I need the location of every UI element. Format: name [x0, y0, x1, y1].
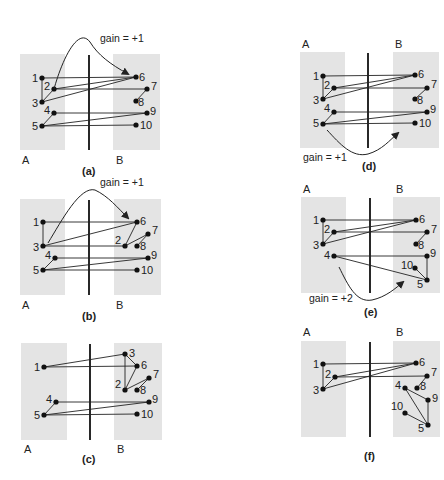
vertex-label: 9: [430, 247, 436, 259]
vertex-label: 1: [313, 214, 319, 226]
vertex-2: [331, 229, 336, 234]
vertex-label: 1: [313, 70, 319, 82]
vertex-label: 2: [325, 368, 331, 380]
vertex-5: [320, 121, 325, 126]
vertex-8: [134, 387, 139, 392]
vertex-label: 10: [419, 117, 431, 129]
vertex-9: [424, 109, 429, 114]
panel-b: 12345678910AB(b)gain = +1: [20, 176, 161, 322]
vertex-1: [320, 361, 325, 366]
vertex-7: [424, 373, 429, 378]
vertex-label: 3: [32, 97, 38, 109]
vertex-label: 10: [141, 408, 153, 420]
vertex-label: 5: [32, 120, 38, 132]
vertex-label: 4: [46, 393, 52, 405]
vertex-3: [320, 386, 325, 391]
vertex-7: [145, 231, 150, 236]
vertex-10: [133, 122, 138, 127]
vertex-4: [331, 109, 336, 114]
vertex-label: 10: [391, 400, 403, 412]
panel-caption: (a): [82, 165, 96, 177]
vertex-1: [320, 73, 325, 78]
panel-a: 12345678910AB(a)gain = +1: [20, 32, 160, 177]
vertex-9: [425, 397, 430, 402]
vertex-2: [331, 85, 336, 90]
vertex-label: 7: [431, 366, 437, 378]
vertex-9: [146, 399, 151, 404]
panel-f: 12345678910AB(f): [301, 326, 440, 462]
vertex-3: [320, 241, 325, 246]
side-label-b: B: [395, 38, 402, 50]
side-label-a: A: [302, 38, 310, 50]
vertex-label: 7: [152, 224, 158, 236]
vertex-label: 9: [151, 249, 157, 261]
vertex-label: 4: [44, 104, 50, 116]
vertex-label: 6: [418, 68, 424, 80]
vertex-label: 7: [431, 78, 437, 90]
vertex-3: [320, 96, 325, 101]
vertex-6: [133, 74, 138, 79]
vertex-5: [41, 412, 46, 417]
vertex-10: [134, 267, 139, 272]
panel-caption: (f): [364, 450, 375, 462]
side-label-a: A: [22, 299, 30, 311]
vertex-1: [40, 219, 45, 224]
vertex-10: [412, 120, 417, 125]
vertex-label: 3: [129, 347, 135, 359]
panel-caption: (b): [82, 310, 96, 322]
vertex-6: [134, 363, 139, 368]
vertex-3: [122, 351, 127, 356]
vertex-label: 6: [419, 213, 425, 225]
vertex-label: 3: [313, 94, 319, 106]
vertex-label: 8: [418, 239, 424, 251]
vertex-label: 3: [313, 239, 319, 251]
vertex-5: [40, 267, 45, 272]
vertex-label: 7: [431, 223, 437, 235]
vertex-2: [332, 374, 337, 379]
vertex-3: [40, 243, 45, 248]
vertex-label: 10: [401, 259, 413, 271]
side-label-b: B: [117, 443, 124, 455]
side-label-b: B: [116, 154, 123, 166]
gain-label: gain = +1: [100, 32, 144, 44]
vertex-label: 6: [139, 71, 145, 83]
vertex-label: 8: [140, 384, 146, 396]
vertex-label: 10: [140, 119, 152, 131]
vertex-1: [320, 217, 325, 222]
vertex-label: 4: [324, 249, 330, 261]
vertex-label: 4: [45, 249, 51, 261]
vertex-5: [425, 422, 430, 427]
panel-caption: (c): [82, 453, 96, 465]
vertex-label: 2: [115, 234, 121, 246]
vertex-label: 1: [33, 216, 39, 228]
side-label-b: B: [116, 299, 123, 311]
vertex-2: [122, 387, 127, 392]
vertex-label: 7: [151, 80, 157, 92]
vertex-label: 2: [324, 79, 330, 91]
panel-caption: (d): [362, 160, 376, 172]
vertex-label: 5: [34, 409, 40, 421]
side-label-b: B: [396, 183, 403, 195]
vertex-label: 6: [419, 356, 425, 368]
vertex-7: [146, 375, 151, 380]
vertex-4: [52, 255, 57, 260]
gain-label: gain = +1: [100, 176, 144, 188]
vertex-5: [424, 277, 429, 282]
vertex-label: 6: [140, 215, 146, 227]
vertex-2: [122, 243, 127, 248]
vertex-label: 8: [140, 240, 146, 252]
panel-e: 12345678910AB(e)gain = +2: [301, 183, 440, 318]
vertex-label: 5: [33, 264, 39, 276]
vertex-label: 4: [395, 379, 401, 391]
vertex-label: 10: [141, 264, 153, 276]
vertex-label: 9: [152, 393, 158, 405]
vertex-4: [53, 399, 58, 404]
vertex-7: [144, 86, 149, 91]
vertex-4: [51, 110, 56, 115]
vertex-7: [424, 85, 429, 90]
vertex-label: 8: [138, 96, 144, 108]
panel-d: 12345678910AB(d)gain = +1: [300, 38, 439, 172]
vertex-label: 1: [32, 72, 38, 84]
side-label-b: B: [396, 326, 403, 338]
vertex-label: 5: [418, 422, 424, 434]
